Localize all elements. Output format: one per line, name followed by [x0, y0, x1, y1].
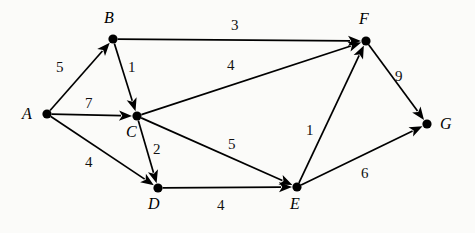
edge-c-to-f: [141, 46, 350, 115]
node-label-c: C: [126, 124, 137, 140]
node-label-e: E: [290, 196, 300, 212]
arrowhead-f-to-g: [412, 106, 424, 120]
graph-canvas: [0, 0, 475, 233]
node-f: [361, 36, 370, 45]
edge-b-to-f: [118, 39, 350, 41]
node-label-b: B: [104, 10, 114, 26]
edge-e-to-f: [299, 55, 359, 182]
edge-e-to-g: [301, 131, 412, 185]
node-label-g: G: [440, 116, 452, 132]
edge-f-to-g: [369, 45, 418, 111]
nodes-layer: [42, 34, 431, 192]
edge-weight-ac: 7: [85, 96, 93, 111]
edge-weight-bf: 3: [231, 18, 239, 33]
edge-c-to-d: [138, 120, 153, 172]
edge-weight-ad: 4: [85, 155, 93, 170]
edge-weight-ab: 5: [56, 60, 64, 75]
edge-d-to-e: [163, 187, 281, 188]
node-b: [108, 34, 117, 43]
node-label-a: A: [22, 106, 32, 122]
graph-figure: 574134254169ABCDEFG: [0, 0, 475, 233]
node-label-f: F: [359, 11, 369, 27]
edge-weight-eg: 6: [361, 166, 369, 181]
edge-c-to-e: [141, 118, 282, 181]
edge-weight-ce: 5: [228, 137, 236, 152]
edge-a-to-c: [52, 114, 121, 116]
node-c: [132, 111, 141, 120]
edge-weight-cf: 4: [227, 58, 235, 73]
node-g: [422, 119, 431, 128]
edge-weight-de: 4: [217, 198, 225, 213]
node-a: [42, 109, 51, 118]
edge-weight-ef: 1: [306, 123, 314, 138]
edge-weight-cd: 2: [153, 142, 161, 157]
node-label-d: D: [148, 196, 160, 212]
edge-weight-fg: 9: [395, 69, 403, 84]
edge-weight-bc: 1: [128, 60, 136, 75]
node-e: [292, 182, 301, 191]
node-d: [153, 183, 162, 192]
